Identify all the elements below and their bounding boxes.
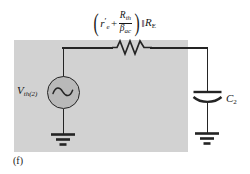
wire-right-upper <box>207 47 209 92</box>
formula-open-paren: ( <box>94 14 99 33</box>
impedance-label: ( r′e + Rth βac ) ‖ RE <box>92 6 202 40</box>
formula-plus-sign: + <box>111 17 117 29</box>
source-label-base: V <box>17 84 24 96</box>
shaded-background-panel <box>14 40 188 152</box>
resistor-symbol <box>112 39 152 58</box>
capacitor-label: C2 <box>226 92 237 106</box>
ground-symbol-right <box>192 131 222 153</box>
formula-term-re: r′e <box>100 16 109 31</box>
ac-voltage-source <box>47 76 80 109</box>
circuit-diagram-figure: ( r′e + Rth βac ) ‖ RE Vth(2) <box>0 0 250 174</box>
source-label-subscript: th(2) <box>24 90 38 98</box>
wire-left-upper <box>63 47 65 77</box>
fraction-denominator: βac <box>119 24 132 35</box>
formula-fraction: Rth βac <box>119 11 132 35</box>
ground-symbol-left <box>48 132 78 154</box>
wire-right-lower <box>207 101 209 133</box>
formula-close-paren: ) <box>134 14 139 33</box>
wire-top-right <box>150 47 208 49</box>
formula-term-RE: RE <box>145 16 156 30</box>
figure-caption: (f) <box>13 155 23 166</box>
wire-top-left <box>62 47 113 49</box>
capacitor-label-subscript: 2 <box>233 98 237 106</box>
wire-left-lower <box>63 109 65 134</box>
source-label: Vth(2) <box>17 84 37 98</box>
fraction-numerator: Rth <box>119 11 132 22</box>
